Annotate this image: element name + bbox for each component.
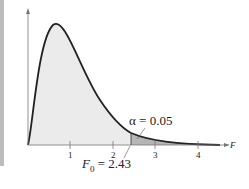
tick-label-3: 3 — [153, 150, 158, 160]
f0-value: = 2.43 — [94, 156, 131, 171]
f0-symbol: F — [82, 156, 90, 171]
x-axis-label: F — [230, 140, 236, 150]
y-axis-arrow — [26, 8, 30, 14]
alpha-annotation: α = 0.05 — [129, 113, 172, 129]
tick-label-1: 1 — [68, 150, 73, 160]
tick-label-4: 4 — [196, 150, 201, 160]
body-area — [28, 24, 131, 145]
critical-value-annotation: F0 = 2.43 — [82, 156, 131, 174]
